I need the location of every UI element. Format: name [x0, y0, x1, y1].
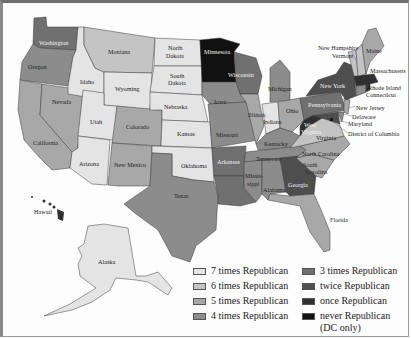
- label-new-hampshire: New Hampshire: [318, 44, 359, 51]
- label-florida: Florida: [330, 216, 348, 223]
- label-oklahoma: Oklahoma: [181, 162, 207, 169]
- label-nevada: Nevada: [52, 98, 71, 105]
- legend-label: 4 times Republican: [211, 311, 288, 321]
- label-south-carolina: South: [303, 161, 318, 168]
- legend-label: 3 times Republican: [320, 266, 397, 276]
- legend-swatch: [193, 313, 206, 320]
- label-new-mexico: New Mexico: [114, 161, 146, 168]
- legend-item-7: 7 times Republican: [193, 266, 288, 276]
- legend-swatch: [302, 298, 315, 305]
- label-idaho: Idaho: [80, 78, 94, 85]
- label-michigan: Michigan: [268, 85, 292, 92]
- label-arkansas: Arkansas: [217, 158, 241, 165]
- label-pennsylvania: Pennsylvania: [308, 101, 341, 108]
- label-alaska: Alaska: [98, 258, 115, 265]
- label-delaware: Delaware: [352, 113, 376, 120]
- legend-swatch: [193, 283, 206, 290]
- legend-swatch: [302, 283, 315, 290]
- legend-label: 6 times Republican: [211, 281, 288, 291]
- legend-label: 7 times Republican: [211, 266, 288, 276]
- label-wisconsin: Wisconsin: [228, 71, 254, 78]
- state-new-jersey[interactable]: [344, 98, 350, 114]
- label-nebraska: Nebraska: [164, 103, 188, 110]
- label-mississippi-2: sippi: [247, 180, 259, 187]
- label-georgia: Georgia: [288, 181, 308, 188]
- label-arizona: Arizona: [79, 160, 99, 167]
- legend-note: (DC only): [320, 322, 390, 334]
- legend-swatch: [302, 313, 315, 320]
- label-texas: Texas: [174, 192, 189, 199]
- label-oregon: Oregon: [28, 63, 47, 70]
- label-dc: District of Columbia: [348, 130, 399, 137]
- legend-label: once Republican: [320, 296, 387, 306]
- label-south-carolina-2: Carolina: [306, 168, 328, 175]
- legend-swatch: [193, 298, 206, 305]
- state-alaska[interactable]: [44, 224, 172, 316]
- legend-label: 5 times Republican: [211, 296, 288, 306]
- label-missouri: Missouri: [216, 131, 238, 138]
- state-michigan[interactable]: [270, 60, 290, 102]
- label-virginia: Virginia: [316, 134, 336, 141]
- label-vermont: Vermont: [332, 52, 354, 59]
- label-mississippi: Missis-: [245, 172, 263, 179]
- legend-label: never Republican: [320, 310, 390, 322]
- legend-item-3: 3 times Republican: [302, 266, 397, 276]
- label-new-jersey: New Jersey: [356, 104, 386, 111]
- label-massachusetts: Massachusetts: [370, 67, 406, 74]
- label-north-dakota-2: Dakota: [166, 52, 184, 59]
- label-maine: Maine: [366, 47, 382, 54]
- label-west-virginia-2: Virginia: [301, 128, 321, 135]
- legend-label: twice Republican: [320, 281, 390, 291]
- legend-swatch: [302, 268, 315, 275]
- label-kentucky: Kentucky: [264, 140, 289, 147]
- legend-item-6: 6 times Republican: [193, 281, 288, 291]
- label-minnesota: Minnesota: [204, 48, 230, 55]
- label-new-york: New York: [320, 82, 346, 89]
- label-washington: Washington: [39, 39, 68, 46]
- label-tennessee: Tennessee: [256, 155, 282, 162]
- state-florida[interactable]: [268, 194, 330, 252]
- label-utah: Utah: [90, 118, 103, 125]
- label-indiana: Indiana: [263, 118, 282, 125]
- label-california: California: [33, 139, 58, 146]
- legend-item-5: 5 times Republican: [193, 296, 288, 306]
- label-wyoming: Wyoming: [115, 85, 139, 92]
- legend-item-0: never Republican (DC only): [302, 311, 390, 334]
- legend-item-2: twice Republican: [302, 281, 390, 291]
- legend-item-1: once Republican: [302, 296, 387, 306]
- label-north-carolina: North Carolina: [302, 150, 340, 157]
- label-rhode-island: Rhode Island: [368, 84, 402, 91]
- label-hawaii: Hawaii: [34, 208, 52, 215]
- label-south-dakota-2: Dakota: [168, 79, 186, 86]
- label-kansas: Kansas: [177, 130, 195, 137]
- label-south-dakota: South: [170, 72, 185, 79]
- legend-swatch: [193, 268, 206, 275]
- label-west-virginia: West: [304, 121, 316, 128]
- label-iowa: Iowa: [214, 98, 227, 105]
- label-ohio: Ohio: [286, 107, 298, 114]
- label-colorado: Colorado: [126, 123, 149, 130]
- label-louisiana: Louisiana: [224, 204, 249, 211]
- label-illinois: Illinois: [248, 111, 266, 118]
- state-dc[interactable]: [330, 118, 333, 121]
- label-north-dakota: North: [168, 44, 183, 51]
- label-maryland: Maryland: [348, 120, 373, 127]
- label-connecticut: Connecticut: [366, 91, 396, 98]
- label-alabama: Alabama: [263, 186, 286, 193]
- legend-item-4: 4 times Republican: [193, 311, 288, 321]
- label-montana: Montana: [108, 48, 130, 55]
